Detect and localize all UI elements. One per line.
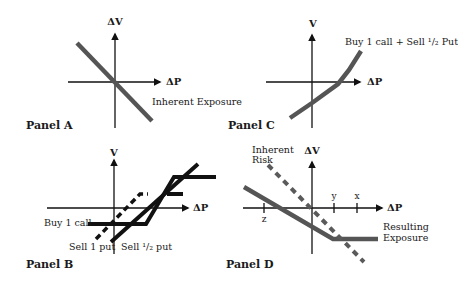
y-axis-label: V: [308, 18, 317, 29]
line-sell-1-put: [111, 164, 198, 242]
annotation-resulting: Resulting: [383, 221, 429, 232]
panel-c-title: Panel C: [228, 119, 275, 132]
annotation-buy-1-call: Buy 1 call: [44, 217, 92, 228]
panel-a-title: Panel A: [26, 119, 73, 132]
panel-d: zyx ΔV ΔP Inherent Risk Resulting Exposu…: [226, 144, 429, 271]
annotation-risk: Risk: [252, 154, 273, 165]
annotation-exposure: Exposure: [383, 232, 429, 243]
panel-c-lines: [290, 51, 361, 118]
annotation-inherent-exposure: Inherent Exposure: [152, 96, 242, 107]
panel-a: ΔV ΔP Inherent Exposure Panel A: [26, 16, 242, 132]
y-axis-label: V: [109, 147, 118, 158]
panel-b: V ΔP Buy 1 call Sell 1 put Sell ¹/₂ put …: [26, 147, 216, 271]
x-axis-label: ΔP: [367, 76, 383, 87]
tick-label-y: y: [330, 191, 337, 201]
line-inherent-risk: [268, 165, 364, 262]
x-axis-label: ΔP: [387, 202, 403, 213]
x-axis-label: ΔP: [193, 202, 209, 213]
tick-label-z: z: [262, 214, 267, 224]
panel-c: V ΔP Buy 1 call + Sell ¹/₂ Put Panel C: [228, 18, 458, 132]
tick-label-x: x: [354, 191, 359, 201]
line-buy-1-call-sell-1-2-put: [290, 51, 361, 118]
line-buy-1-call: [88, 177, 216, 224]
y-axis-label: ΔV: [304, 145, 320, 156]
annotation-buy-call-sell-half-put: Buy 1 call + Sell ¹/₂ Put: [345, 36, 458, 47]
annotation-sell-1-put: Sell 1 put: [69, 241, 115, 252]
annotation-sell-half-put: Sell ¹/₂ put: [121, 241, 172, 252]
y-axis-label: ΔV: [107, 16, 123, 27]
exposure-diagram: ΔV ΔP Inherent Exposure Panel A V ΔP Buy…: [0, 0, 458, 289]
panel-b-title: Panel B: [26, 258, 73, 271]
panel-d-title: Panel D: [226, 258, 274, 271]
x-axis-label: ΔP: [166, 76, 182, 87]
